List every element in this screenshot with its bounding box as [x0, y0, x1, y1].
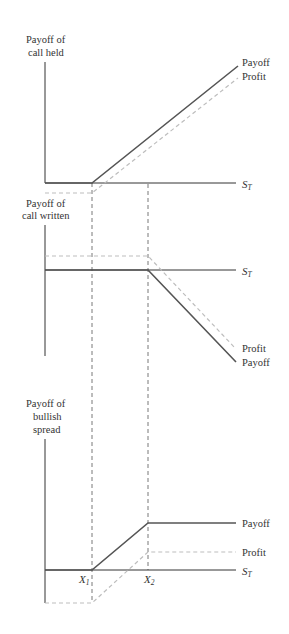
legend-payoff: Payoff: [242, 518, 270, 529]
panel-call-written: Payoff of call written ST Profit Payoff: [22, 198, 270, 368]
legend-payoff: Payoff: [242, 357, 270, 368]
x-axis-label: ST: [242, 265, 253, 279]
payoff-line: [45, 270, 236, 362]
panel-call-held: Payoff of call held ST Payoff Profit: [26, 34, 270, 193]
panel-title-line: Payoff of: [26, 34, 66, 45]
panel-title-line: Payoff of: [26, 198, 66, 209]
panel-title-line: call written: [22, 210, 70, 221]
x1-label: X1: [78, 573, 89, 587]
legend-profit: Profit: [242, 343, 266, 354]
payoff-line: [45, 523, 236, 570]
panel-title-line: Payoff of: [26, 398, 66, 409]
legend-profit: Profit: [242, 71, 266, 82]
legend-profit: Profit: [242, 547, 266, 558]
payoff-line: [45, 66, 238, 183]
x-axis-label: ST: [242, 565, 253, 579]
profit-line: [45, 552, 236, 603]
panel-title-line: call held: [28, 47, 65, 58]
panel-title-line: spread: [33, 424, 61, 435]
bullish-spread-figure: Payoff of call held ST Payoff Profit Pay…: [0, 0, 289, 634]
x2-label: X2: [143, 573, 155, 587]
panel-title-line: bullish: [33, 411, 62, 422]
profit-line: [45, 78, 238, 193]
legend-payoff: Payoff: [242, 57, 270, 68]
x-axis-label: ST: [242, 178, 253, 192]
